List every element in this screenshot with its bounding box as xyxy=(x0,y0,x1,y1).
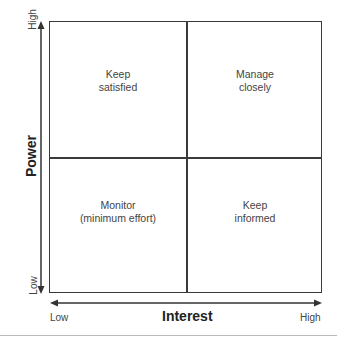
axis-arrows xyxy=(0,0,337,338)
bottom-rule xyxy=(0,335,337,336)
y-axis-high-label: High xyxy=(27,9,38,30)
x-axis-high-label: High xyxy=(300,312,321,323)
x-axis-title: Interest xyxy=(162,308,213,324)
y-axis-low-label: Low xyxy=(28,276,39,294)
horizontal-double-arrow-icon xyxy=(50,300,322,307)
x-axis-low-label: Low xyxy=(50,312,68,323)
y-axis-title: Power xyxy=(23,131,39,181)
